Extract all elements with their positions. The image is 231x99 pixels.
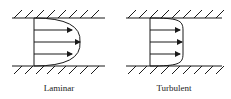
wall-hatch xyxy=(69,66,77,74)
bottom-wall xyxy=(126,66,224,74)
wall-hatch xyxy=(205,10,213,18)
wall-hatch xyxy=(216,66,224,74)
wall-hatch xyxy=(161,10,169,18)
wall-hatch xyxy=(194,66,202,74)
turbulent-panel: Turbulent xyxy=(126,10,224,93)
wall-hatch xyxy=(36,66,44,74)
wall-hatch xyxy=(91,10,99,18)
velocity-arrows xyxy=(34,30,80,54)
laminar-panel: Laminar xyxy=(12,10,105,93)
turbulent-label: Turbulent xyxy=(156,83,192,93)
wall-hatch xyxy=(47,66,55,74)
laminar-label: Laminar xyxy=(44,83,75,93)
wall-hatch xyxy=(80,66,88,74)
wall-hatch xyxy=(172,66,180,74)
wall-hatch xyxy=(128,66,136,74)
diagram-canvas: Laminar Turbulent xyxy=(0,0,231,99)
wall-hatch xyxy=(36,10,44,18)
wall-hatch xyxy=(150,66,158,74)
wall-hatch xyxy=(14,10,22,18)
top-wall xyxy=(12,10,105,18)
wall-hatch xyxy=(139,66,147,74)
wall-hatch xyxy=(194,10,202,18)
top-wall xyxy=(126,10,224,18)
velocity-profile-diagram: Laminar Turbulent xyxy=(0,0,231,99)
wall-hatch xyxy=(47,10,55,18)
wall-hatch xyxy=(139,10,147,18)
wall-hatch xyxy=(205,66,213,74)
wall-hatch xyxy=(183,66,191,74)
wall-hatch xyxy=(172,10,180,18)
wall-hatch xyxy=(183,10,191,18)
velocity-arrows xyxy=(150,30,182,54)
wall-hatch xyxy=(91,66,99,74)
wall-hatch xyxy=(58,66,66,74)
wall-hatch xyxy=(25,66,33,74)
wall-hatch xyxy=(69,10,77,18)
wall-hatch xyxy=(216,10,224,18)
bottom-wall xyxy=(12,66,105,74)
wall-hatch xyxy=(161,66,169,74)
wall-hatch xyxy=(80,10,88,18)
wall-hatch xyxy=(128,10,136,18)
wall-hatch xyxy=(14,66,22,74)
wall-hatch xyxy=(58,10,66,18)
wall-hatch xyxy=(150,10,158,18)
wall-hatch xyxy=(25,10,33,18)
